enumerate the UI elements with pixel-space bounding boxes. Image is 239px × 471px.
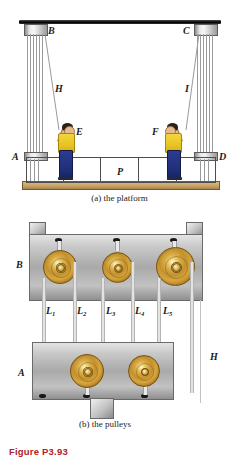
label-l4: L4 [135, 306, 144, 316]
right-rope-strand [200, 34, 201, 153]
upper-block-pin [115, 241, 120, 251]
right-rope-strand [206, 34, 207, 153]
worker-shoe [167, 177, 174, 180]
label-e-worker: E [76, 127, 83, 137]
wheel-hub [57, 264, 65, 272]
wheel-ring [51, 258, 71, 278]
label-h-hanging: H [210, 352, 218, 362]
label-l5: L5 [163, 306, 172, 316]
upper-pulley-wheel [102, 252, 133, 283]
caption-part-a: (a) the platform [0, 194, 239, 203]
lower-pulley-wheel [70, 354, 104, 388]
label-l3-sub: 3 [112, 310, 115, 317]
wheel-hub [141, 368, 149, 376]
figure-number-label: Figure P3.93 [9, 446, 68, 457]
right-rope-strand [212, 34, 213, 153]
left-rope-strand [42, 34, 43, 153]
label-i-rope: I [185, 84, 189, 94]
label-h-rope: H [55, 84, 63, 94]
right-rope-strand [203, 34, 204, 153]
wheel-hub [84, 368, 92, 376]
label-a-side: A [12, 152, 19, 162]
upper-pulley-wheel [43, 250, 77, 284]
wheel-hub [172, 263, 181, 272]
right-rope-strand [209, 34, 210, 153]
label-l1-sub: 1 [52, 310, 55, 317]
worker-pants [59, 150, 73, 180]
label-c-top: C [183, 26, 190, 36]
right-rope-strand [197, 34, 198, 153]
label-l1: L1 [46, 306, 55, 316]
lower-block-hook-stub [90, 398, 114, 419]
label-b-block: B [16, 260, 23, 270]
lower-block-anchor [39, 394, 46, 398]
label-l2: L2 [77, 306, 86, 316]
figure-p3-93: B C H I A D [0, 0, 239, 471]
label-l5-sub: 5 [169, 310, 172, 317]
label-l3: L3 [106, 306, 115, 316]
wheel-ring [165, 256, 188, 279]
railing-post [100, 157, 101, 181]
label-a-block: A [18, 368, 25, 378]
worker-shoe [58, 177, 65, 180]
hanging-rope-h [200, 300, 201, 403]
wheel-hub [115, 265, 123, 273]
lower-pulley-wheel [128, 355, 160, 387]
railing-post [138, 157, 139, 181]
right-worker [156, 118, 190, 184]
left-rope-strand [36, 34, 37, 153]
left-rope-strand [33, 34, 34, 153]
worker-shoe [175, 177, 182, 180]
label-p-platform: P [117, 167, 123, 177]
left-rope-strand [39, 34, 40, 153]
label-l2-sub: 2 [83, 310, 86, 317]
worker-shoe [66, 177, 73, 180]
wheel-ring [136, 363, 155, 382]
caption-part-b: (b) the pulleys [0, 420, 210, 429]
wheel-ring [78, 362, 98, 382]
left-rope-strand [30, 34, 31, 153]
left-rope-strand [27, 34, 28, 153]
label-b-top: B [48, 26, 55, 36]
label-l4-sub: 4 [141, 310, 144, 317]
ceiling-beam-icon [19, 20, 221, 24]
label-f-worker: F [152, 127, 159, 137]
wheel-ring [109, 259, 127, 277]
worker-pants [167, 150, 181, 180]
label-d-side: D [219, 152, 226, 162]
rope-strand-tail [190, 262, 194, 393]
